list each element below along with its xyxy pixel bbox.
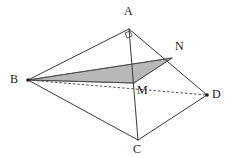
vertex-label-A: A (124, 5, 133, 17)
edge-BC (28, 80, 138, 140)
geometry-canvas (0, 0, 236, 158)
edge-CD (138, 95, 207, 140)
vertex-dot-D (205, 93, 209, 97)
vertex-dot-B (26, 78, 30, 82)
vertex-label-C: C (133, 143, 141, 155)
vertex-label-D: D (212, 88, 221, 100)
vertex-label-M: M (137, 84, 148, 96)
right-angle-mark-icon (125, 31, 132, 38)
geometry-figure: A B C D M N (0, 0, 236, 158)
vertex-label-B: B (10, 73, 18, 85)
vertex-label-N: N (175, 40, 184, 52)
